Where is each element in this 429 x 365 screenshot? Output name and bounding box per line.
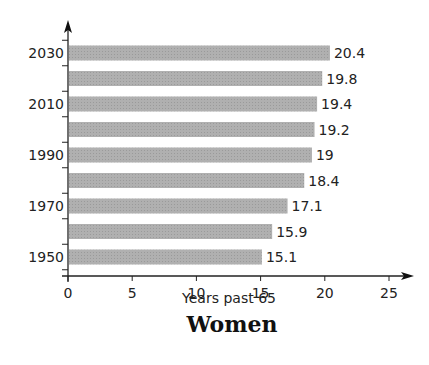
bar-1950 <box>69 250 262 265</box>
bar-1980 <box>69 173 304 188</box>
y-tick-label: 1990 <box>28 147 64 163</box>
y-tick-label: 1970 <box>28 198 64 214</box>
x-tick-label: 25 <box>380 285 398 301</box>
x-tick-label: 5 <box>128 285 137 301</box>
value-label: 19.4 <box>321 96 352 112</box>
value-label: 20.4 <box>334 45 365 61</box>
value-label: 15.9 <box>276 224 307 240</box>
y-tick-label: 2030 <box>28 45 64 61</box>
value-label: 15.1 <box>266 249 297 265</box>
bar-1990 <box>69 148 312 163</box>
bar-2000 <box>69 122 315 137</box>
bars-group: 15.115.917.118.41919.219.419.820.4 <box>69 45 365 265</box>
bar-2030 <box>69 46 330 61</box>
chart-title: Women <box>186 311 278 337</box>
y-axis: 19501970199020102030 <box>28 20 72 282</box>
bar-2010 <box>69 97 317 112</box>
bar-2020 <box>69 71 322 86</box>
value-label: 18.4 <box>308 173 339 189</box>
value-label: 19.2 <box>319 122 350 138</box>
value-label: 17.1 <box>292 198 323 214</box>
x-tick-label: 20 <box>316 285 334 301</box>
value-label: 19.8 <box>326 71 357 87</box>
x-tick-label: 0 <box>64 285 73 301</box>
value-label: 19 <box>316 147 334 163</box>
bar-1970 <box>69 199 288 214</box>
x-axis-label: Years past 65 <box>181 290 276 306</box>
y-tick-label: 1950 <box>28 249 64 265</box>
bar-1960 <box>69 224 272 239</box>
y-tick-label: 2010 <box>28 96 64 112</box>
bar-chart: 15.115.917.118.41919.219.419.820.4 19501… <box>0 0 429 365</box>
